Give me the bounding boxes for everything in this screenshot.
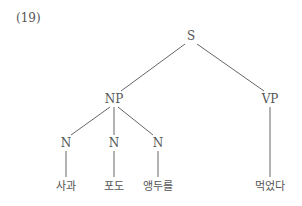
leaf-word-w3: 앵두를 [143,181,173,192]
leaf-word-w2: 포도 [104,181,124,192]
node-n1: N [61,137,72,149]
leaf-word-w1: 사과 [56,181,76,192]
node-n3: N [153,137,164,149]
edge-np-n1 [71,107,110,135]
edge-s-np [121,44,185,91]
node-np: NP [105,93,124,105]
node-n2: N [109,137,120,149]
edge-np-n3 [118,107,153,135]
node-vp: VP [262,93,279,105]
node-s: S [187,30,195,42]
leaf-word-w4: 먹었다 [255,181,285,192]
syntax-tree-diagram: (19) SNPVPNNN사과포도앵두를먹었다 [0,0,302,206]
edge-s-vp [197,44,264,91]
tree-edges [0,0,302,206]
